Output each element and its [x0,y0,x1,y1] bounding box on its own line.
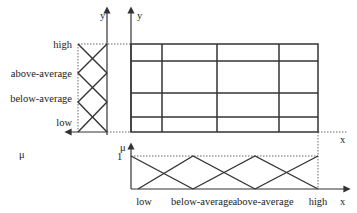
bottom-membership-panel: μ 1 low below-average above-average high… [117,142,347,207]
left-set-label: low [56,117,72,128]
left-set-label: high [53,39,72,50]
mf-above-average-left [78,44,107,102]
mf-above-average-bottom [193,156,318,189]
main-x-label: x [340,134,346,145]
left-set-label: above-average [11,68,73,79]
left-y-label: y [100,10,106,21]
bottom-one-label: 1 [117,151,122,162]
main-y-label: y [137,10,143,21]
grid-border [131,44,318,132]
left-set-label: below-average [10,93,72,104]
grid-partition-panel: y x [131,10,347,189]
bottom-set-label: above-average [232,196,294,207]
bottom-set-label: low [136,196,152,207]
fuzzy-partition-diagram: y μ high above-average below-average low… [0,0,357,213]
bottom-set-label: high [309,196,328,207]
mf-below-average-left [78,73,107,132]
bottom-set-label: below-average [171,196,233,207]
left-mu-label: μ [19,149,25,160]
mf-below-average-bottom [138,156,255,189]
bottom-x-label: x [340,196,346,207]
left-membership-panel: y μ high above-average below-average low [10,10,131,160]
